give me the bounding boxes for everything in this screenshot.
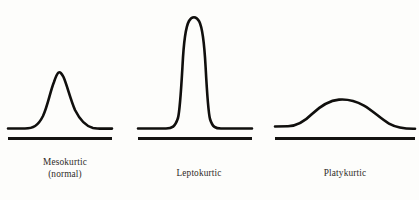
kurtosis-figure: Mesokurtic (normal) Leptokurtic Platykur…: [0, 0, 419, 200]
mesokurtic-curve: [0, 0, 130, 150]
caption-mesokurtic: Mesokurtic (normal): [0, 157, 130, 180]
panel-mesokurtic: Mesokurtic (normal): [0, 0, 130, 200]
caption-mesokurtic-line2: (normal): [0, 169, 130, 181]
caption-mesokurtic-line1: Mesokurtic: [43, 157, 87, 167]
platykurtic-curve: [271, 0, 419, 150]
caption-platykurtic-line1: Platykurtic: [324, 168, 366, 178]
leptokurtic-curve: [134, 0, 264, 150]
caption-leptokurtic-line1: Leptokurtic: [176, 168, 221, 178]
caption-platykurtic: Platykurtic: [271, 168, 419, 180]
panel-platykurtic: Platykurtic: [271, 0, 419, 200]
caption-leptokurtic: Leptokurtic: [134, 168, 264, 180]
panel-leptokurtic: Leptokurtic: [134, 0, 264, 200]
